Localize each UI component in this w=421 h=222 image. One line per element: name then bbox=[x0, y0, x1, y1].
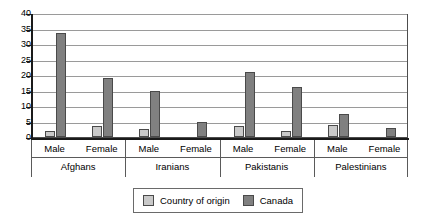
gridline bbox=[32, 61, 407, 62]
bar bbox=[92, 126, 102, 137]
legend-label: Country of origin bbox=[160, 195, 230, 206]
bar bbox=[281, 131, 291, 137]
x-axis-labels: MaleFemaleAfghansMaleFemaleIraniansMaleF… bbox=[31, 140, 408, 182]
x-axis-sub-label: Male bbox=[125, 143, 172, 154]
bar bbox=[234, 126, 244, 137]
bar bbox=[56, 33, 66, 137]
x-axis-tier-divider bbox=[220, 157, 314, 158]
legend-label: Canada bbox=[260, 195, 293, 206]
x-axis-tier-divider bbox=[314, 157, 408, 158]
x-axis-sub-label: Male bbox=[220, 143, 267, 154]
gridline bbox=[32, 45, 407, 46]
x-axis-group-separator bbox=[407, 140, 408, 177]
gridline bbox=[32, 92, 407, 93]
x-axis-group-separator bbox=[125, 140, 126, 177]
legend-swatch-origin bbox=[143, 195, 154, 206]
x-axis-group-separator bbox=[220, 140, 221, 177]
x-axis-group-separator bbox=[31, 140, 32, 177]
bar bbox=[45, 131, 55, 137]
x-axis-sub-label: Male bbox=[314, 143, 361, 154]
bar-chart: 0510152025303540 MaleFemaleAfghansMaleFe… bbox=[0, 0, 421, 222]
bar bbox=[328, 125, 338, 137]
legend-item: Country of origin bbox=[143, 195, 230, 206]
x-axis-sub-label: Female bbox=[172, 143, 219, 154]
bar bbox=[292, 87, 302, 137]
x-axis-group-label: Palestinians bbox=[314, 161, 408, 172]
legend-swatch-canada bbox=[243, 195, 254, 206]
gridline bbox=[32, 123, 407, 124]
x-axis-group-label: Afghans bbox=[31, 161, 125, 172]
bar bbox=[245, 72, 255, 137]
bar bbox=[197, 122, 207, 138]
legend-item: Canada bbox=[243, 195, 293, 206]
x-axis-sub-label: Female bbox=[78, 143, 125, 154]
x-axis-sub-label: Female bbox=[361, 143, 408, 154]
bar bbox=[386, 128, 396, 137]
gridline bbox=[32, 30, 407, 31]
bar bbox=[339, 114, 349, 137]
y-axis: 0510152025303540 bbox=[0, 0, 31, 222]
plot-area bbox=[31, 14, 408, 138]
x-axis-tier-divider bbox=[125, 157, 219, 158]
x-axis-sub-label: Male bbox=[31, 143, 78, 154]
x-axis-group-separator bbox=[314, 140, 315, 177]
chart-legend: Country of originCanada bbox=[133, 188, 303, 213]
bar bbox=[150, 91, 160, 138]
bar bbox=[103, 78, 113, 137]
gridline bbox=[32, 14, 407, 15]
gridline bbox=[32, 107, 407, 108]
bar bbox=[139, 129, 149, 137]
x-axis-group-label: Iranians bbox=[125, 161, 219, 172]
x-axis-group-label: Pakistanis bbox=[220, 161, 314, 172]
x-axis-sub-label: Female bbox=[267, 143, 314, 154]
gridline bbox=[32, 76, 407, 77]
y-axis-line bbox=[31, 14, 33, 139]
x-axis-tier-divider bbox=[31, 157, 125, 158]
